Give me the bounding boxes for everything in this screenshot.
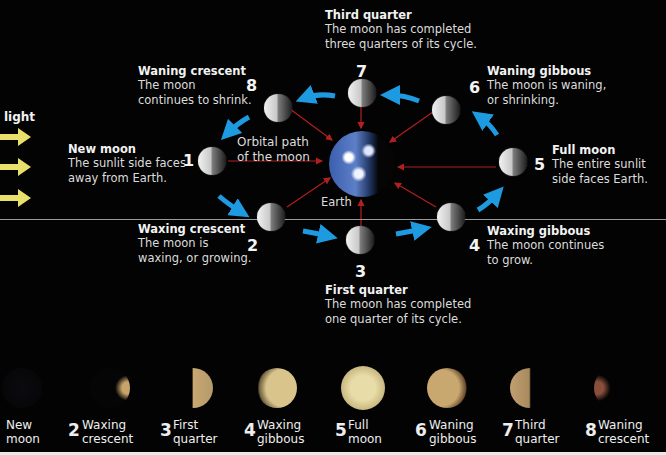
strip-number: 3 [160,420,172,440]
strip-label-line: Waxing [82,418,133,432]
strip-label-line: gibbous [257,432,304,446]
phase-desc: to grow. [487,253,604,268]
strip-label-line: crescent [598,432,649,446]
earth-label: Earth [321,195,352,210]
strip-label-line: moon [6,432,40,446]
phase-number: 7 [356,62,367,81]
phase-desc: continues to shrink. [138,93,252,108]
phase-5-caption: Full moon The entire sunlit side faces E… [552,143,648,186]
phase-desc: one quarter of its cycle. [325,312,471,327]
orbit-label-line: Orbital path [237,135,310,150]
phase-title: Waning gibbous [487,64,606,78]
strip-label-line: gibbous [429,432,476,446]
strip-label-line: Third [515,418,560,432]
phase-title: Third quarter [325,8,477,22]
orbit-label-line: of the moon [237,150,310,165]
phase-3-caption: First quarter The moon has completed one… [325,283,471,326]
phase-2-caption: Waxing crescent The moon is waxing, or g… [138,222,251,265]
photo-first-quarter [173,368,213,408]
phase-1-caption: New moon The sunlit side faces away from… [68,142,186,185]
strip-label-line: New [6,418,40,432]
phase-desc: side faces Earth. [552,172,648,187]
strip-label-line: moon [348,432,382,446]
phase-desc: or shrinking. [487,93,606,108]
strip-number: 5 [335,420,347,440]
sunlight-arrows [0,128,31,207]
moon-phase-4 [437,203,465,231]
strip-label-line: First [173,418,218,432]
phase-desc: The moon is [138,236,251,251]
strip-label-2: Waxing crescent [82,418,133,446]
phase-title: Full moon [552,143,648,157]
strip-label-line: quarter [515,432,560,446]
strip-label-3: First quarter [173,418,218,446]
strip-label-6: Waning gibbous [429,418,476,446]
photo-waxing-crescent [90,368,130,408]
phase-7-caption: Third quarter The moon has completed thr… [325,8,477,51]
moon-phase-8 [264,94,292,122]
phase-desc: The sunlit side faces [68,156,186,171]
strip-label-line: Full [348,418,382,432]
strip-label-4: Waxing gibbous [257,418,304,446]
phase-desc: The moon [138,78,252,93]
phase-desc: The moon has completed [325,297,471,312]
moon-phase-6 [432,96,460,124]
phase-number: 5 [534,155,545,174]
phase-desc: waxing, or growing. [138,251,251,266]
phase-desc: The moon is waning, [487,78,606,93]
phase-number: 4 [469,236,480,255]
phase-title: First quarter [325,283,471,297]
phase-6-caption: Waning gibbous The moon is waning, or sh… [487,64,606,107]
photo-full-moon [341,366,385,410]
phase-8-caption: Waning crescent The moon continues to sh… [138,64,252,107]
phase-number: 1 [183,151,194,170]
phase-desc: away from Earth. [68,171,186,186]
photo-waxing-gibbous [257,368,297,408]
moon-phase-5 [499,148,527,176]
strip-label-line: crescent [82,432,133,446]
phase-desc: The moon has completed [325,22,477,37]
photo-third-quarter [510,368,550,408]
photo-new-moon [2,368,42,408]
strip-label-8: Waning crescent [598,418,649,446]
phase-title: Waning crescent [138,64,252,78]
light-label: light [4,110,35,124]
phase-title: New moon [68,142,186,156]
phase-4-caption: Waxing gibbous The moon continues to gro… [487,224,604,267]
phase-title: Waxing gibbous [487,224,604,238]
strip-label-line: quarter [173,432,218,446]
moon-phase-7 [348,79,376,107]
strip-label-line: Waning [429,418,476,432]
phase-number: 6 [469,78,480,97]
phase-number: 8 [246,76,257,95]
strip-label-5: Full moon [348,418,382,446]
strip-number: 2 [68,420,80,440]
moon-phase-2 [257,203,285,231]
photo-waning-crescent [594,368,634,408]
moon-phase-3 [346,226,374,254]
strip-label-7: Third quarter [515,418,560,446]
earth-image [329,131,395,197]
phase-number: 3 [355,262,366,281]
divider-line [0,219,666,220]
phase-desc: The entire sunlit [552,157,648,172]
moon-phase-1 [198,147,226,175]
strip-label-line: Waning [598,418,649,432]
strip-number: 7 [502,420,514,440]
strip-label-1: New moon [6,418,40,446]
moon-phases-diagram: light Earth Orbital path of the moon New… [0,0,666,455]
strip-number: 4 [244,420,256,440]
strip-number: 8 [585,420,597,440]
orbit-label: Orbital path of the moon [237,135,310,164]
strip-number: 6 [415,420,427,440]
phase-desc: three quarters of its cycle. [325,37,477,52]
phase-number: 2 [247,236,258,255]
phase-desc: The moon continues [487,238,604,253]
strip-label-line: Waxing [257,418,304,432]
phase-title: Waxing crescent [138,222,251,236]
photo-waning-gibbous [427,368,467,408]
